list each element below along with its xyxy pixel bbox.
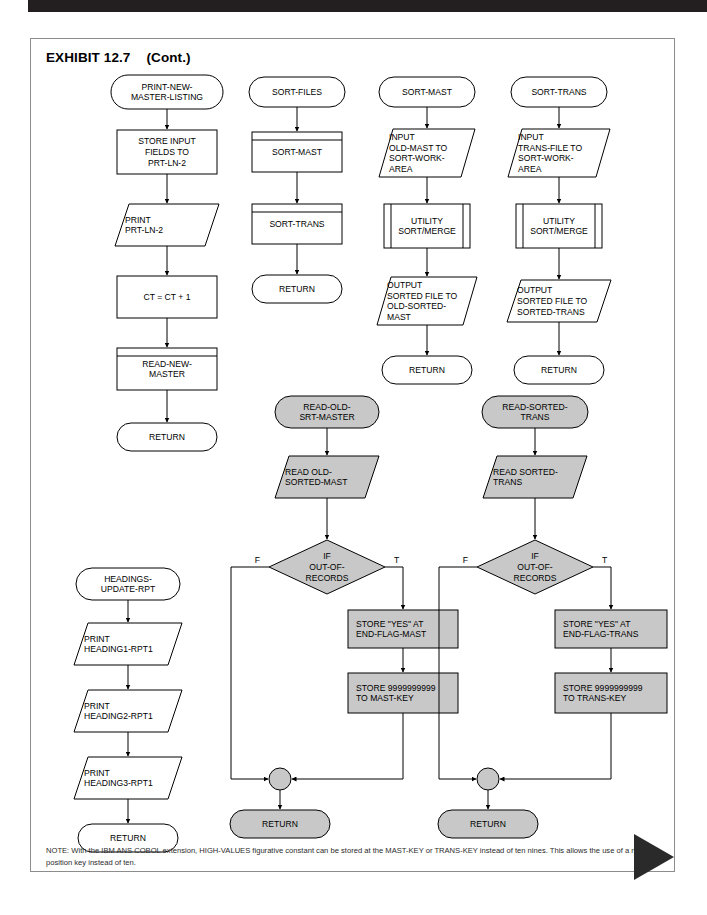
flow-node-label-c1n6: RETURN — [149, 432, 185, 442]
branch-label-false: F — [463, 555, 468, 565]
flowchart-canvas: PRINT-NEW-MASTER-LISTINGSTORE INPUTFIELD… — [31, 39, 674, 871]
flow-node-label-c1n5: READ-NEW-MASTER — [142, 359, 192, 380]
footnote-text: NOTE: With the IBM ANS COBOL extension, … — [46, 845, 646, 868]
flow-node-label-c6n7: RETURN — [470, 819, 506, 829]
flow-node-label-c5n4: STORE "YES" ATEND-FLAG-MAST — [356, 619, 427, 640]
flow-node-label-c2n1: SORT-FILES — [272, 87, 322, 97]
flow-node-c5n6 — [269, 768, 291, 790]
flow-node-c6n6 — [477, 768, 499, 790]
flowchart-svg: PRINT-NEW-MASTER-LISTINGSTORE INPUTFIELD… — [31, 39, 674, 871]
flow-edge-merge-right — [500, 713, 611, 779]
flow-node-label-c1n4: CT = CT + 1 — [144, 292, 191, 302]
flow-node-label-c2n2: SORT-MAST — [272, 147, 323, 157]
flow-edge-true — [593, 567, 611, 609]
page-header-bar — [28, 0, 707, 12]
branch-label-false: F — [255, 555, 260, 565]
flow-node-label-c3n5: RETURN — [409, 365, 445, 375]
page-corner-triangle-icon — [634, 834, 674, 880]
exhibit-page: EXHIBIT 12.7(Cont.) PRINT-NEW-MASTER-LIS… — [30, 38, 675, 872]
flow-node-label-c5n7: RETURN — [262, 819, 298, 829]
flow-node-label-c2n3: SORT-TRANS — [269, 219, 324, 229]
flow-node-label-c7n5: RETURN — [110, 833, 146, 843]
flow-node-label-c7n1: HEADINGS-UPDATE-RPT — [101, 574, 156, 595]
branch-label-true: T — [602, 555, 608, 565]
flow-node-label-c4n1: SORT-TRANS — [531, 87, 586, 97]
flow-node-label-c4n5: RETURN — [541, 365, 577, 375]
flow-edge-true — [385, 567, 403, 609]
flow-edge-merge-right — [292, 713, 403, 779]
flow-edge-false — [231, 567, 269, 779]
branch-label-true: T — [394, 555, 400, 565]
flow-node-label-c2n4: RETURN — [279, 284, 315, 294]
flow-node-label-c6n4: STORE "YES" ATEND-FLAG-TRANS — [563, 619, 639, 640]
flow-node-label-c5n1: READ-OLD-SRT-MASTER — [299, 402, 354, 423]
flow-node-label-c3n1: SORT-MAST — [402, 87, 453, 97]
